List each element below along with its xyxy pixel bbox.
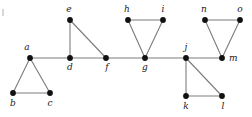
graph-edge-m-n <box>205 20 222 58</box>
graph-vertex-j <box>183 55 189 61</box>
graph-canvas: abcdefghijklmno <box>0 0 252 117</box>
vertex-label-n: n <box>201 4 207 14</box>
vertex-label-b: b <box>10 98 16 108</box>
graph-figure: abcdefghijklmno <box>0 0 252 117</box>
vertex-label-j: j <box>183 42 188 52</box>
vertex-label-d: d <box>67 62 73 72</box>
edge-layer <box>13 20 240 96</box>
graph-vertex-o <box>237 17 243 23</box>
graph-edge-j-l <box>186 58 222 96</box>
graph-edge-g-i <box>145 20 163 58</box>
graph-vertex-m <box>219 55 225 61</box>
vertex-label-h: h <box>124 4 130 14</box>
graph-vertex-f <box>103 55 109 61</box>
graph-vertex-e <box>67 17 73 23</box>
vertex-label-a: a <box>24 42 29 52</box>
vertex-label-l: l <box>222 101 225 111</box>
vertex-label-m: m <box>229 53 238 63</box>
vertex-label-g: g <box>142 62 148 72</box>
vertex-label-i: i <box>162 4 165 14</box>
graph-edge-g-h <box>128 20 145 58</box>
graph-vertex-l <box>219 93 225 99</box>
graph-vertex-b <box>10 90 16 96</box>
vertex-label-f: f <box>104 62 110 72</box>
graph-vertex-i <box>160 17 166 23</box>
graph-vertex-g <box>142 55 148 61</box>
vertex-label-e: e <box>66 4 71 14</box>
vertex-label-o: o <box>237 4 243 14</box>
graph-vertex-h <box>125 17 131 23</box>
graph-edge-e-f <box>70 20 106 58</box>
graph-vertex-n <box>202 17 208 23</box>
graph-vertex-c <box>47 90 53 96</box>
graph-edge-a-c <box>30 58 50 93</box>
vertex-label-c: c <box>47 98 52 108</box>
vertex-label-k: k <box>183 101 188 111</box>
graph-vertex-k <box>183 93 189 99</box>
graph-edge-a-b <box>13 58 30 93</box>
graph-vertex-d <box>67 55 73 61</box>
graph-vertex-a <box>27 55 33 61</box>
